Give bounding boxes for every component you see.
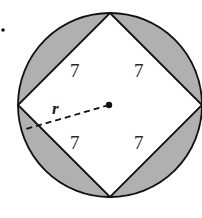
- bullet-marker: [1, 28, 5, 32]
- side-label-bottom-left: 7: [70, 132, 80, 153]
- radius-label: r: [52, 99, 59, 118]
- center-point: [106, 102, 112, 108]
- side-label-bottom-right: 7: [134, 132, 144, 153]
- inscribed-square-diagram: r 7 7 7 7: [0, 0, 202, 218]
- side-label-top-right: 7: [134, 60, 144, 81]
- side-label-top-left: 7: [70, 60, 80, 81]
